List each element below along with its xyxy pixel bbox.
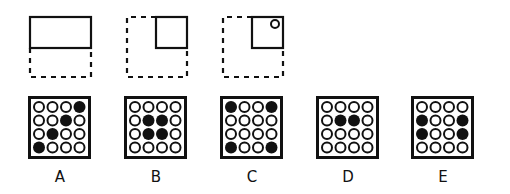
filled-dot xyxy=(457,128,469,140)
empty-dot xyxy=(322,129,332,139)
filled-dot xyxy=(156,128,168,140)
empty-dot xyxy=(431,102,441,112)
empty-dot xyxy=(363,116,373,126)
empty-dot xyxy=(61,102,71,112)
empty-dot xyxy=(157,143,167,153)
filled-dot xyxy=(225,101,237,113)
empty-dot xyxy=(240,143,250,153)
option-d[interactable] xyxy=(318,98,378,158)
empty-dot xyxy=(75,116,85,126)
empty-dot xyxy=(226,129,236,139)
empty-dot xyxy=(240,116,250,126)
empty-dot xyxy=(130,102,140,112)
empty-dot xyxy=(34,129,44,139)
empty-dot xyxy=(417,143,427,153)
filled-dot xyxy=(416,128,428,140)
filled-dot xyxy=(156,115,168,127)
empty-dot xyxy=(75,143,85,153)
figure-3 xyxy=(223,17,283,77)
figure-2-solid-square xyxy=(156,17,187,48)
filled-dot xyxy=(266,142,278,154)
empty-dot xyxy=(157,102,167,112)
filled-dot xyxy=(33,142,45,154)
diagram-canvas xyxy=(0,0,510,194)
figure-1-dashed-outline xyxy=(30,48,91,77)
filled-dot xyxy=(143,128,155,140)
empty-dot xyxy=(322,143,332,153)
empty-dot xyxy=(240,129,250,139)
filled-dot xyxy=(416,115,428,127)
filled-dot xyxy=(348,115,360,127)
empty-dot xyxy=(336,129,346,139)
filled-dot xyxy=(143,115,155,127)
figure-2 xyxy=(127,17,187,77)
empty-dot xyxy=(253,129,263,139)
empty-dot xyxy=(48,116,58,126)
option-c[interactable] xyxy=(222,98,282,158)
empty-dot xyxy=(349,129,359,139)
empty-dot xyxy=(253,143,263,153)
empty-dot xyxy=(171,129,181,139)
option-e[interactable] xyxy=(413,98,473,158)
empty-dot xyxy=(253,102,263,112)
empty-dot xyxy=(144,143,154,153)
empty-dot xyxy=(267,129,277,139)
empty-dot xyxy=(444,102,454,112)
empty-dot xyxy=(75,129,85,139)
empty-dot xyxy=(253,116,263,126)
empty-dot xyxy=(130,129,140,139)
empty-dot xyxy=(61,129,71,139)
figure-1-solid-rect xyxy=(30,17,91,48)
filled-dot xyxy=(457,115,469,127)
empty-dot xyxy=(363,143,373,153)
empty-dot xyxy=(444,129,454,139)
filled-dot xyxy=(335,115,347,127)
empty-dot xyxy=(130,143,140,153)
empty-dot xyxy=(458,143,468,153)
empty-dot xyxy=(267,116,277,126)
filled-dot xyxy=(225,142,237,154)
figure-1 xyxy=(30,17,91,77)
empty-dot xyxy=(171,116,181,126)
option-label-e[interactable]: E xyxy=(411,168,475,186)
empty-dot xyxy=(444,116,454,126)
empty-dot xyxy=(458,102,468,112)
empty-dot xyxy=(363,129,373,139)
filled-dot xyxy=(60,115,72,127)
option-label-d[interactable]: D xyxy=(316,168,380,186)
filled-dot xyxy=(266,101,278,113)
empty-dot xyxy=(349,143,359,153)
empty-dot xyxy=(144,102,154,112)
empty-dot xyxy=(363,102,373,112)
empty-dot xyxy=(431,116,441,126)
filled-dot xyxy=(74,101,86,113)
empty-dot xyxy=(226,116,236,126)
empty-dot xyxy=(417,102,427,112)
empty-dot xyxy=(431,143,441,153)
empty-dot xyxy=(322,102,332,112)
empty-dot xyxy=(48,102,58,112)
filled-dot xyxy=(47,128,59,140)
empty-dot xyxy=(240,102,250,112)
empty-dot xyxy=(34,116,44,126)
empty-dot xyxy=(349,102,359,112)
empty-dot xyxy=(171,143,181,153)
empty-dot xyxy=(336,102,346,112)
figure-3-small-circle xyxy=(271,20,279,28)
empty-dot xyxy=(48,143,58,153)
option-a[interactable] xyxy=(30,98,90,158)
empty-dot xyxy=(431,129,441,139)
puzzle-diagram: ABCDE xyxy=(0,0,510,194)
empty-dot xyxy=(322,116,332,126)
empty-dot xyxy=(34,102,44,112)
empty-dot xyxy=(61,143,71,153)
empty-dot xyxy=(171,102,181,112)
option-label-b[interactable]: B xyxy=(124,168,188,186)
empty-dot xyxy=(444,143,454,153)
option-label-a[interactable]: A xyxy=(28,168,92,186)
empty-dot xyxy=(130,116,140,126)
answer-options xyxy=(30,98,473,158)
option-label-c[interactable]: C xyxy=(220,168,284,186)
option-b[interactable] xyxy=(126,98,186,158)
empty-dot xyxy=(336,143,346,153)
